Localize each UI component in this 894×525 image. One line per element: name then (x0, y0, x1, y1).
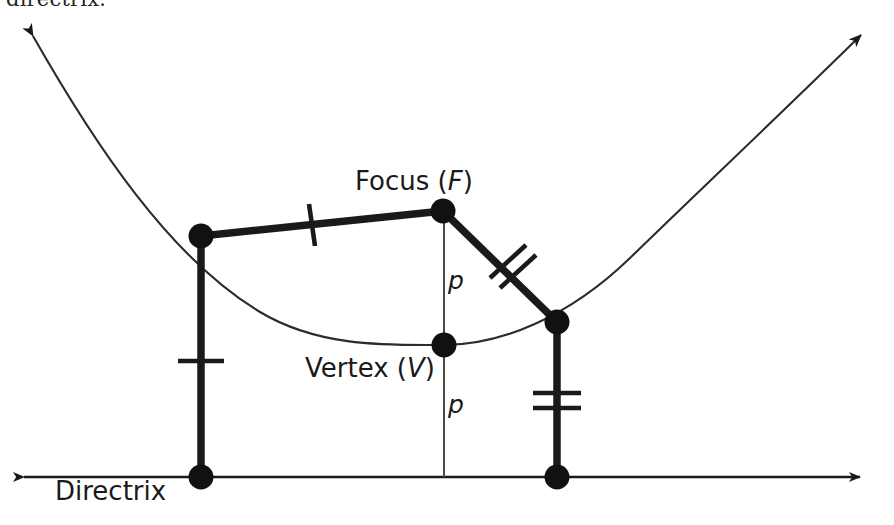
point-focus (431, 199, 456, 224)
segment-focal-radius-left (201, 211, 443, 236)
point-right-foot (545, 465, 570, 490)
tick-focal-radius-left (309, 204, 315, 246)
vertex-symbol: V (407, 353, 425, 383)
point-left-foot (189, 465, 214, 490)
point-vertex (432, 333, 457, 358)
vertex-label-text: Vertex ( (305, 353, 407, 383)
vertex-label: Vertex (V) (305, 355, 435, 381)
directrix-label: Directrix (55, 478, 166, 504)
p-label-upper: p (448, 268, 464, 293)
vertex-label-close: ) (425, 353, 435, 383)
parabola-diagram (0, 0, 894, 525)
point-right-curve (545, 310, 570, 335)
diagram-canvas: directrix. (0, 0, 894, 525)
focus-label: Focus (F) (355, 168, 473, 194)
focus-symbol: F (448, 166, 463, 196)
focus-label-text: Focus ( (355, 166, 448, 196)
focus-label-close: ) (463, 166, 473, 196)
point-left-curve (189, 224, 214, 249)
p-label-lower: p (448, 392, 464, 417)
